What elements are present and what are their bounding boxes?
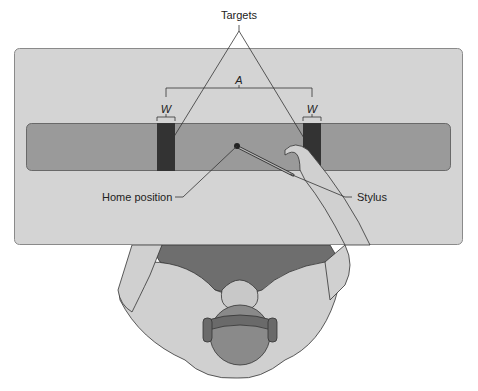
headset-left-ear bbox=[203, 318, 212, 342]
targets-label: Targets bbox=[221, 9, 258, 21]
amplitude-label: A bbox=[234, 74, 242, 86]
home-position-label: Home position bbox=[102, 191, 172, 203]
left-target bbox=[157, 123, 175, 171]
head bbox=[210, 305, 270, 365]
headset-right-ear bbox=[268, 318, 277, 342]
width-left-label: W bbox=[161, 103, 173, 115]
stylus-label: Stylus bbox=[357, 191, 387, 203]
fitts-task-illustration: Targets A W W Home position Stylus bbox=[0, 0, 478, 391]
participant-figure bbox=[118, 245, 340, 378]
width-right-label: W bbox=[307, 103, 319, 115]
